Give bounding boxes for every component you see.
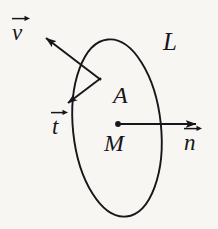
figure-canvas: L A M n t v xyxy=(0,0,218,229)
tangent-vector-label: t xyxy=(52,115,58,138)
velocity-vector-label: v xyxy=(12,21,22,44)
velocity-vector xyxy=(46,38,101,80)
contour-label-L: L xyxy=(163,29,177,54)
normal-vector-symbol: n xyxy=(184,131,196,154)
diagram-svg xyxy=(0,0,218,229)
tangent-vector-symbol: t xyxy=(52,115,58,138)
normal-vector-label: n xyxy=(184,131,196,154)
area-label-A: A xyxy=(113,83,128,107)
center-dot xyxy=(115,121,121,127)
center-label-M: M xyxy=(104,131,124,155)
velocity-vector-symbol: v xyxy=(12,21,22,44)
